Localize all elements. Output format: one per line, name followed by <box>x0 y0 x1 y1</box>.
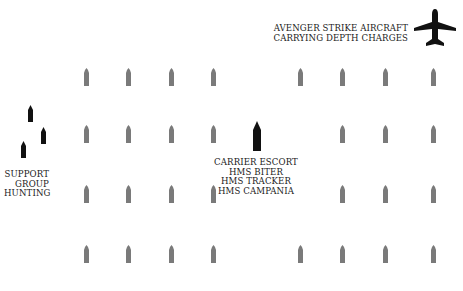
merchant-ship-icon <box>431 185 436 203</box>
merchant-ship-icon <box>431 68 436 86</box>
carrier-label-line: HMS CAMPANIA <box>208 187 304 197</box>
convoy-diagram: AVENGER STRIKE AIRCRAFT CARRYING DEPTH C… <box>0 0 463 291</box>
merchant-ship-icon <box>383 68 388 86</box>
warship-icon <box>21 141 26 158</box>
airplane-icon <box>413 8 457 52</box>
merchant-ship-icon <box>340 125 345 143</box>
merchant-ship-icon <box>169 125 174 143</box>
merchant-ship-icon <box>211 125 216 143</box>
merchant-ship-icon <box>126 68 131 86</box>
carrier-escort-label: CARRIER ESCORT HMS BITER HMS TRACKER HMS… <box>208 158 304 196</box>
carrier-icon <box>253 121 261 151</box>
warship-icon <box>28 105 33 122</box>
aircraft-label-line: CARRYING DEPTH CHARGES <box>273 34 408 44</box>
merchant-ship-icon <box>340 185 345 203</box>
merchant-ship-icon <box>126 125 131 143</box>
merchant-ship-icon <box>126 245 131 263</box>
merchant-ship-icon <box>126 185 131 203</box>
support-group-label: SUPPORT GROUP HUNTING <box>4 170 49 199</box>
merchant-ship-icon <box>169 245 174 263</box>
merchant-ship-icon <box>84 245 89 263</box>
merchant-ship-icon <box>298 245 303 263</box>
merchant-ship-icon <box>211 245 216 263</box>
merchant-ship-icon <box>169 68 174 86</box>
merchant-ship-icon <box>431 245 436 263</box>
merchant-ship-icon <box>340 68 345 86</box>
warship-icon <box>41 127 46 144</box>
merchant-ship-icon <box>169 185 174 203</box>
merchant-ship-icon <box>298 68 303 86</box>
aircraft-label: AVENGER STRIKE AIRCRAFT CARRYING DEPTH C… <box>273 24 408 43</box>
merchant-ship-icon <box>84 185 89 203</box>
merchant-ship-icon <box>84 68 89 86</box>
merchant-ship-icon <box>383 125 388 143</box>
merchant-ship-icon <box>84 125 89 143</box>
merchant-ship-icon <box>211 185 216 203</box>
merchant-ship-icon <box>340 245 345 263</box>
merchant-ship-icon <box>383 185 388 203</box>
support-label-line: HUNTING <box>4 189 49 199</box>
merchant-ship-icon <box>431 125 436 143</box>
merchant-ship-icon <box>211 68 216 86</box>
merchant-ship-icon <box>383 245 388 263</box>
